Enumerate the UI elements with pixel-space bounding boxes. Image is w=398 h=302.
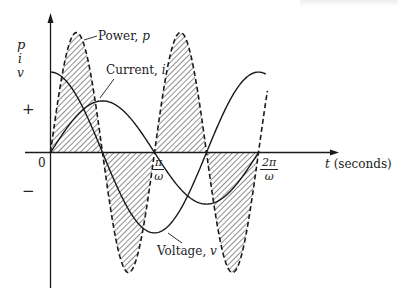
y-label-p: p xyxy=(17,38,25,51)
tick-numerator: 2π xyxy=(260,157,278,170)
current-label: Current, i xyxy=(106,64,166,76)
positive-sign: + xyxy=(22,102,35,117)
x-axis-variable: t xyxy=(325,157,330,171)
x-axis-unit: (seconds) xyxy=(334,157,392,171)
y-axis-arrow-icon xyxy=(48,13,54,23)
y-label-i: i xyxy=(18,53,22,65)
tick-denominator: ω xyxy=(260,170,278,182)
power-label-text: Power, xyxy=(98,29,142,43)
voltage-label-text: Voltage, xyxy=(157,244,210,258)
tick-numerator: π xyxy=(153,157,164,170)
power-label: Power, p xyxy=(98,30,150,42)
origin-label: 0 xyxy=(38,157,46,169)
scan-artifact xyxy=(300,0,398,6)
tick-pi-over-omega: π ω xyxy=(153,157,164,182)
current-leader-line xyxy=(100,79,114,98)
current-label-text: Current, xyxy=(106,63,162,77)
x-axis-arrow-icon xyxy=(330,150,339,156)
x-axis-label: t (seconds) xyxy=(325,158,392,170)
tick-denominator: ω xyxy=(153,170,164,182)
power-leader-line xyxy=(84,36,97,40)
voltage-leader-line xyxy=(168,233,182,243)
power-label-var: p xyxy=(142,29,150,43)
tick-2pi-over-omega: 2π ω xyxy=(260,157,278,182)
current-label-var: i xyxy=(162,63,166,77)
y-label-v: v xyxy=(17,67,24,79)
voltage-label-var: v xyxy=(210,244,217,258)
negative-sign: − xyxy=(22,184,35,199)
voltage-label: Voltage, v xyxy=(157,245,217,257)
